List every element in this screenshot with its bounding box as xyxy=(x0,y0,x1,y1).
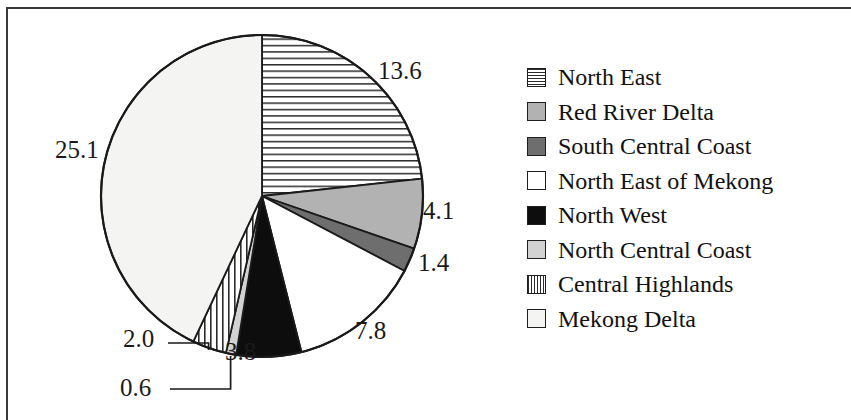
chart-legend: North EastRed River DeltaSouth Central C… xyxy=(527,60,847,336)
legend-swatch-icon xyxy=(527,137,546,156)
slice-value-red-river-delta: 4.1 xyxy=(423,198,454,223)
slice-value-north-central-coast: 0.6 xyxy=(120,375,151,400)
legend-item-south-central-coast[interactable]: South Central Coast xyxy=(527,129,847,164)
pie-slices-group xyxy=(101,35,423,357)
legend-item-label: North Central Coast xyxy=(558,238,751,262)
legend-item-label: North East xyxy=(558,65,661,89)
slice-value-north-east: 13.6 xyxy=(378,58,422,83)
legend-item-label: North East of Mekong xyxy=(558,169,773,193)
legend-item-north-east[interactable]: North East xyxy=(527,60,847,95)
legend-item-mekong-delta[interactable]: Mekong Delta xyxy=(527,302,847,337)
legend-item-label: North West xyxy=(558,203,667,227)
legend-swatch-icon xyxy=(527,240,546,259)
slice-value-south-central-coast: 1.4 xyxy=(418,250,449,275)
legend-item-north-west[interactable]: North West xyxy=(527,198,847,233)
leader-line-north-central-coast xyxy=(170,356,231,389)
legend-swatch-icon xyxy=(527,275,546,294)
legend-item-red-river-delta[interactable]: Red River Delta xyxy=(527,95,847,130)
legend-item-label: South Central Coast xyxy=(558,134,751,158)
legend-item-central-highlands[interactable]: Central Highlands xyxy=(527,267,847,302)
pie-chart-figure: 13.6 25.1 4.1 1.4 7.8 3.8 2.0 0.6 North … xyxy=(0,0,851,420)
slice-value-central-highlands: 2.0 xyxy=(123,326,154,351)
legend-item-north-east-of-mekong[interactable]: North East of Mekong xyxy=(527,164,847,199)
legend-item-label: Central Highlands xyxy=(558,272,733,296)
slice-value-north-east-of-mekong: 7.8 xyxy=(355,318,386,343)
legend-swatch-icon xyxy=(527,171,546,190)
slice-value-north-west: 3.8 xyxy=(225,339,256,364)
legend-item-north-central-coast[interactable]: North Central Coast xyxy=(527,233,847,268)
legend-item-label: Mekong Delta xyxy=(558,307,696,331)
legend-item-label: Red River Delta xyxy=(558,100,714,124)
legend-swatch-icon xyxy=(527,102,546,121)
legend-swatch-icon xyxy=(527,309,546,328)
legend-swatch-icon xyxy=(527,206,546,225)
slice-value-mekong-delta: 25.1 xyxy=(55,137,99,162)
legend-swatch-icon xyxy=(527,68,546,87)
